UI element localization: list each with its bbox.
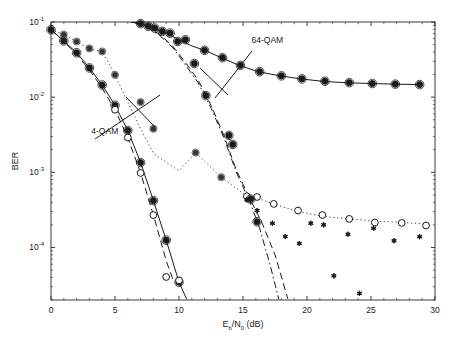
data-point-10-2 — [175, 38, 181, 44]
x-axis-label-n: /N — [232, 319, 241, 329]
y-tick-mantissa: 10 — [29, 242, 39, 252]
annotation-label-0: 4-QAM — [91, 126, 118, 136]
data-point-1-0 — [48, 27, 54, 33]
y-tick-exponent: -2 — [39, 91, 45, 97]
data-point-10-0 — [145, 23, 151, 29]
data-point-8-8 — [278, 73, 284, 79]
data-point-3-1 — [124, 134, 131, 141]
data-point-8-10 — [322, 78, 328, 84]
chart-background — [0, 0, 453, 347]
data-point-10-6 — [230, 141, 236, 147]
y-tick-mantissa: 10 — [29, 167, 39, 177]
y-tick-mantissa: 10 — [29, 17, 39, 27]
data-point-10-1 — [159, 28, 165, 34]
data-point-6-5 — [346, 215, 353, 222]
data-point-5-0 — [61, 32, 66, 37]
data-point-1-6 — [125, 127, 131, 133]
annotation-label-1: 64-QAM — [251, 35, 283, 45]
data-point-8-13 — [392, 81, 398, 87]
data-point-10-8 — [254, 219, 260, 225]
data-point-8-5 — [219, 55, 225, 61]
y-axis-label: BER — [10, 151, 20, 170]
data-point-3-4 — [163, 274, 170, 281]
data-point-8-2 — [167, 30, 173, 36]
y-tick-exponent: -4 — [39, 241, 45, 247]
data-point-5-2 — [87, 46, 92, 51]
data-point-8-11 — [346, 80, 352, 86]
y-tick-exponent: -1 — [39, 16, 45, 22]
data-point-3-0 — [112, 106, 119, 113]
data-point-3-2 — [137, 170, 144, 177]
data-point-6-8 — [423, 222, 430, 229]
data-point-3-3 — [150, 212, 157, 219]
data-point-8-12 — [369, 80, 375, 86]
data-point-6-3 — [295, 207, 302, 214]
data-point-8-9 — [299, 76, 305, 82]
x-tick-label: 0 — [49, 305, 54, 315]
data-point-1-1 — [61, 38, 67, 44]
data-point-1-4 — [99, 82, 105, 88]
data-point-8-7 — [257, 69, 263, 75]
data-point-5-3 — [100, 49, 105, 54]
data-point-6-7 — [398, 220, 405, 227]
x-tick-label: 30 — [430, 305, 440, 315]
data-point-8-0 — [138, 21, 144, 27]
x-tick-label: 5 — [113, 305, 118, 315]
data-point-8-14 — [417, 81, 423, 87]
data-point-6-2 — [270, 200, 277, 207]
data-point-5-7 — [193, 150, 198, 155]
data-point-5-8 — [219, 175, 224, 180]
data-point-3-5 — [176, 277, 183, 284]
data-point-1-8 — [150, 198, 156, 204]
x-tick-label: 15 — [238, 305, 248, 315]
y-tick-mantissa: 10 — [29, 92, 39, 102]
data-point-6-6 — [371, 219, 378, 226]
data-point-10-4 — [203, 92, 209, 98]
data-point-1-7 — [138, 159, 144, 165]
data-point-6-4 — [319, 212, 326, 219]
x-tick-label: 20 — [302, 305, 312, 315]
data-point-10-3 — [191, 60, 197, 66]
y-tick-exponent: -3 — [39, 166, 45, 172]
ber-chart: 051015202530 10-110-210-310-4 4-QAM64-QA… — [0, 0, 453, 347]
x-axis-label-units: (dB) — [244, 319, 264, 329]
x-tick-label: 25 — [366, 305, 376, 315]
data-point-1-9 — [163, 237, 169, 243]
data-point-8-3 — [182, 37, 188, 43]
data-point-5-6 — [151, 126, 156, 131]
data-point-1-2 — [74, 50, 80, 56]
data-point-10-5 — [226, 132, 232, 138]
data-point-8-4 — [202, 47, 208, 53]
x-tick-label: 10 — [174, 305, 184, 315]
data-point-1-3 — [86, 65, 92, 71]
data-point-5-5 — [138, 99, 143, 104]
data-point-5-4 — [112, 72, 117, 77]
data-point-5-1 — [74, 39, 79, 44]
